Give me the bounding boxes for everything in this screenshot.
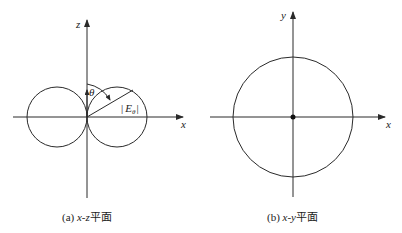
panel-a-xz-plane: θ |Eθ| z x (a) x-z平面 xyxy=(13,18,186,224)
y-axis-label: y xyxy=(280,9,286,21)
x-axis-label-b: x xyxy=(385,118,391,130)
theta-label: θ xyxy=(89,86,95,98)
caption-b: (b) x-y平面 xyxy=(267,211,318,224)
origin-dot xyxy=(291,115,296,120)
x-axis-label-a: x xyxy=(180,118,186,130)
field-magnitude-label: |Eθ| xyxy=(121,102,139,116)
panel-b-xy-plane: y x (b) x-y平面 xyxy=(210,9,391,224)
z-axis-label: z xyxy=(75,18,81,30)
caption-a: (a) x-z平面 xyxy=(62,211,112,224)
radiation-pattern-figure: θ |Eθ| z x (a) x-z平面 y x (b) x-y平面 xyxy=(0,0,402,233)
